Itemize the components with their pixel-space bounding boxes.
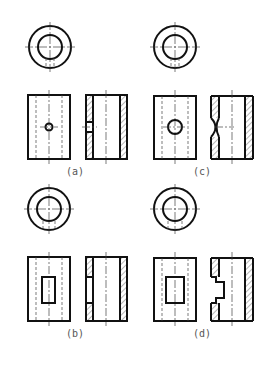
panel-label-d: (d) <box>193 328 211 339</box>
top-view-a <box>25 22 75 72</box>
panel-a <box>25 22 127 164</box>
section-view-c <box>211 90 253 164</box>
section-view-b <box>86 252 127 326</box>
top-view-c <box>150 22 200 72</box>
technical-drawing-figure: (a) (c) (b) (d) <box>0 0 267 365</box>
top-view-d <box>150 184 200 234</box>
panel-label-b: (b) <box>66 328 84 339</box>
panel-label-a: (a) <box>66 166 84 177</box>
panel-label-c: (c) <box>193 166 211 177</box>
section-view-d <box>211 252 253 326</box>
panel-b <box>24 184 127 326</box>
top-view-b <box>24 184 74 234</box>
drawing-canvas <box>0 0 267 365</box>
front-view-a <box>28 90 70 164</box>
panel-d <box>150 184 253 326</box>
front-view-d <box>154 252 196 326</box>
section-view-a <box>82 90 127 164</box>
panel-c <box>150 22 253 164</box>
front-view-c <box>154 90 196 164</box>
front-view-b <box>28 252 70 326</box>
